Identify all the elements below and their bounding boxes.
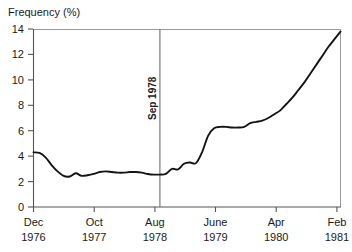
x-tick-label-year: 1977 <box>82 231 106 243</box>
x-tick-label-year: 1978 <box>143 231 167 243</box>
plot-frame <box>33 30 341 208</box>
x-tick-label-year: 1981 <box>325 231 349 243</box>
x-tick-label-month: Dec <box>24 216 44 228</box>
y-tick-label: 8 <box>18 99 24 111</box>
x-axis-ticks <box>34 207 337 212</box>
data-series-line <box>34 32 341 177</box>
chart-canvas: Frequency (%) 0 2 4 6 8 10 12 14 <box>0 0 352 252</box>
y-tick-label: 2 <box>18 176 24 188</box>
y-axis-ticks: 0 2 4 6 8 10 12 14 <box>12 23 33 213</box>
y-tick-label: 14 <box>12 23 24 35</box>
frequency-line-chart: Frequency (%) 0 2 4 6 8 10 12 14 <box>0 0 352 252</box>
event-annotation-label: Sep 1978 <box>147 76 158 120</box>
y-tick-label: 0 <box>18 201 24 213</box>
x-tick-label-month: Oct <box>86 216 103 228</box>
x-tick-label-month: Feb <box>327 216 346 228</box>
y-tick-label: 12 <box>12 48 24 60</box>
x-tick-label-year: 1980 <box>264 231 288 243</box>
y-tick-label: 4 <box>18 150 24 162</box>
y-tick-label: 6 <box>18 125 24 137</box>
event-annotation: Sep 1978 <box>147 29 160 207</box>
x-tick-label-month: June <box>204 216 228 228</box>
x-axis-tick-labels: Dec 1976 Oct 1977 Aug 1978 June 1979 Apr… <box>21 216 349 243</box>
x-tick-label-year: 1979 <box>203 231 227 243</box>
y-tick-label: 10 <box>12 74 24 86</box>
x-tick-label-year: 1976 <box>21 231 45 243</box>
x-tick-label-month: Aug <box>145 216 165 228</box>
x-tick-label-month: Apr <box>268 216 285 228</box>
y-axis-title: Frequency (%) <box>8 6 80 18</box>
